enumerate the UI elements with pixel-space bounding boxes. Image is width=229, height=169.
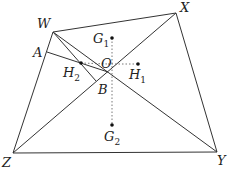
dot-h1 xyxy=(136,62,140,66)
label-g1: G1 xyxy=(93,32,109,49)
label-y: Y xyxy=(217,154,226,167)
label-w: W xyxy=(37,17,50,30)
geometry-diagram: W X Y Z A B O H1 H2 G1 G2 xyxy=(0,0,229,169)
dot-g1 xyxy=(110,36,114,40)
dot-h2 xyxy=(79,61,83,65)
label-a: A xyxy=(33,46,42,59)
label-b: B xyxy=(98,83,108,96)
dot-g2 xyxy=(110,123,114,127)
label-z: Z xyxy=(2,156,11,169)
label-x: X xyxy=(180,1,189,14)
diagonal-wy xyxy=(53,32,217,152)
label-o: O xyxy=(101,57,112,70)
label-h2: H2 xyxy=(63,66,80,83)
label-g2: G2 xyxy=(104,130,120,147)
label-h1: H1 xyxy=(129,68,146,85)
